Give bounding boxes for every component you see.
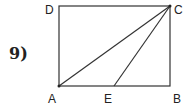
point-c-dot	[169, 5, 172, 8]
label-e: E	[104, 92, 112, 106]
label-b: B	[173, 92, 181, 106]
geometry-diagram: D C A E B	[0, 0, 189, 108]
point-a-dot	[58, 85, 61, 88]
label-a: A	[48, 92, 56, 106]
label-d: D	[45, 3, 54, 17]
label-c: C	[174, 3, 183, 17]
segment-ec	[114, 6, 170, 86]
segment-ac	[59, 6, 170, 86]
